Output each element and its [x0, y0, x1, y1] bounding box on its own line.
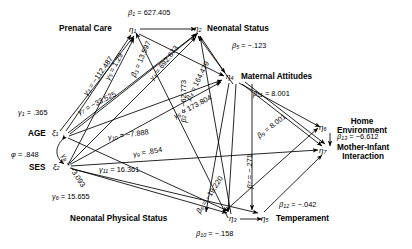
- node-label-neonatal-physical-status: Neonatal Physical Status: [70, 214, 167, 223]
- node-label-maternal-attitudes: Maternal Attitudes: [241, 72, 312, 81]
- path-label-beta2: β2 = −62.773: [179, 80, 188, 123]
- node-label-mother-infant-interaction: Mother-InfantInteraction: [337, 143, 389, 161]
- path-label-beta12: β12 = −.042: [279, 200, 316, 209]
- path-label-gamma11: γ11 = 16.361: [99, 165, 139, 174]
- path-label-beta5: β5 = −.123: [232, 41, 266, 50]
- path-label-gamma6b: γ6 = 15.655: [52, 192, 90, 201]
- path-label-beta1: β1 = 627.405: [128, 8, 170, 17]
- node-symbol-eta1: η1: [129, 25, 136, 34]
- node-symbol-eta7: η7: [319, 146, 326, 155]
- path-diagram-figure: Prenatal Care η1 η2 Neonatal Status η4 M…: [0, 0, 412, 249]
- node-symbol-eta6: η6: [319, 123, 326, 132]
- node-label-ses: SES: [29, 163, 45, 172]
- path-label-beta10: β10 = −.158: [196, 229, 233, 238]
- node-label-prenatal-care: Prenatal Care: [59, 24, 112, 33]
- path-label-beta7: β7 = −.271: [245, 154, 254, 188]
- node-symbol-eta4: η4: [226, 72, 233, 81]
- path-label-beta11: β11 = 8.001: [253, 89, 290, 98]
- path-label-beta13: β13 = −6.612: [337, 132, 378, 141]
- node-symbol-eta3: η3: [229, 214, 236, 223]
- node-label-temperament: Temperament: [276, 214, 329, 223]
- node-symbol-ksi2: ξ2: [53, 162, 60, 171]
- node-symbol-eta5: η5: [261, 214, 268, 223]
- node-symbol-eta2: η2: [194, 24, 201, 33]
- node-label-neonatal-status: Neonatal Status: [207, 24, 269, 33]
- node-symbol-ksi1: ξ1: [52, 128, 59, 137]
- path-label-phi: φ = .848: [11, 150, 39, 159]
- node-label-age: AGE: [28, 129, 46, 138]
- path-label-gamma1: γ1 = .365: [18, 108, 48, 117]
